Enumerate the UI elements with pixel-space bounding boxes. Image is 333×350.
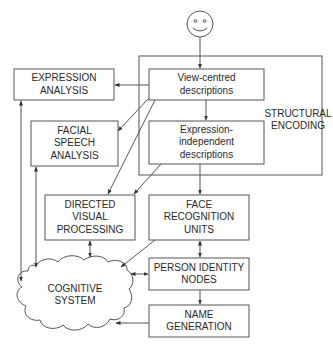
person-identity-nodes-label: PERSON IDENTITY NODES [149,258,249,290]
label-line: GENERATION [166,321,231,334]
label-line: PERSON IDENTITY [154,262,245,275]
label-line: STRUCTURAL [264,108,331,121]
label-line: RECOGNITION [164,211,235,224]
expression-independent-label: Expression- independent descriptions [149,121,264,164]
directed-visual-processing-label: DIRECTED VISUAL PROCESSING [45,195,135,240]
label-line: independent [179,136,234,149]
label-line: ANALYSIS [40,85,88,98]
cognitive-system-label: COGNITIVE SYSTEM [30,280,120,310]
name-generation-label: NAME GENERATION [149,305,249,337]
label-line: ENCODING [271,120,325,133]
label-line: descriptions [180,149,233,162]
expression-analysis-label: EXPRESSION ANALYSIS [14,69,114,100]
label-line: NAME [185,309,214,322]
label-line: UNITS [184,224,214,237]
label-line: VISUAL [72,211,108,224]
label-line: Expression- [180,124,233,137]
label-line: ANALYSIS [50,150,98,163]
facial-speech-analysis-label: FACIAL SPEECH ANALYSIS [31,121,118,166]
label-line: SYSTEM [54,295,95,308]
label-line: COGNITIVE [47,283,102,296]
label-line: FACE [186,199,212,212]
label-line: SPEECH [54,137,95,150]
label-line: EXPRESSION [31,72,96,85]
view-centred-label: View-centred descriptions [149,69,264,100]
structural-encoding-label: STRUCTURAL ENCODING [262,105,333,135]
label-line: descriptions [180,85,233,98]
label-line: DIRECTED [64,199,115,212]
face-recognition-units-label: FACE RECOGNITION UNITS [149,195,249,240]
label-line: PROCESSING [57,224,124,237]
smiley-face-icon [187,11,213,37]
label-line: FACIAL [57,125,91,138]
label-line: NODES [181,274,217,287]
label-line: View-centred [177,72,235,85]
